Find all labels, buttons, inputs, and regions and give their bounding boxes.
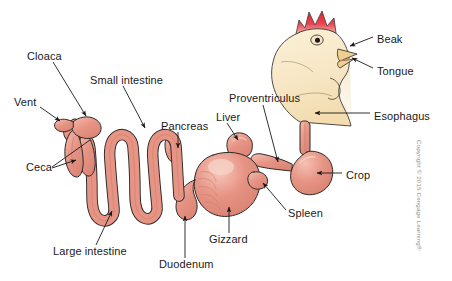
chicken-head-group	[267, 11, 357, 126]
label-vent: Vent	[14, 97, 36, 108]
leader-small-intestine	[123, 86, 145, 128]
label-beak: Beak	[377, 34, 402, 45]
label-tongue: Tongue	[377, 66, 414, 77]
leader-vent	[40, 107, 60, 121]
digestive-tract-group	[55, 117, 333, 221]
label-crop: Crop	[346, 170, 370, 181]
label-gizzard: Gizzard	[209, 234, 248, 245]
spleen-shape	[248, 172, 268, 189]
leader-spleen	[263, 183, 286, 210]
label-large-intestine: Large intestine	[53, 246, 127, 257]
cloaca-shape	[72, 117, 101, 139]
label-duodenum: Duodenum	[159, 259, 214, 270]
figure-canvas: Cloaca Vent Small intestine Ceca Large i…	[0, 0, 452, 281]
label-esophagus: Esophagus	[374, 111, 430, 122]
label-small-intestine: Small intestine	[90, 75, 163, 86]
label-liver: Liver	[216, 112, 240, 123]
leader-tongue	[352, 58, 373, 68]
label-proventriculus: Proventriculus	[229, 93, 300, 104]
label-spleen: Spleen	[288, 208, 323, 219]
leader-beak	[350, 37, 373, 46]
pupil-icon	[315, 38, 320, 43]
gizzard-highlight	[208, 159, 234, 175]
copyright-notice: Copyright © 2015 Cengage Learning®	[416, 140, 423, 251]
leader-cloaca	[53, 62, 86, 116]
label-pancreas: Pancreas	[161, 121, 208, 132]
vent-shape	[55, 119, 73, 132]
label-ceca: Ceca	[26, 162, 52, 173]
label-cloaca: Cloaca	[27, 51, 62, 62]
